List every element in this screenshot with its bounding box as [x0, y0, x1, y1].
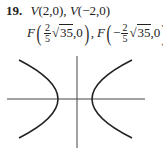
hyperbola-graph	[0, 0, 163, 155]
